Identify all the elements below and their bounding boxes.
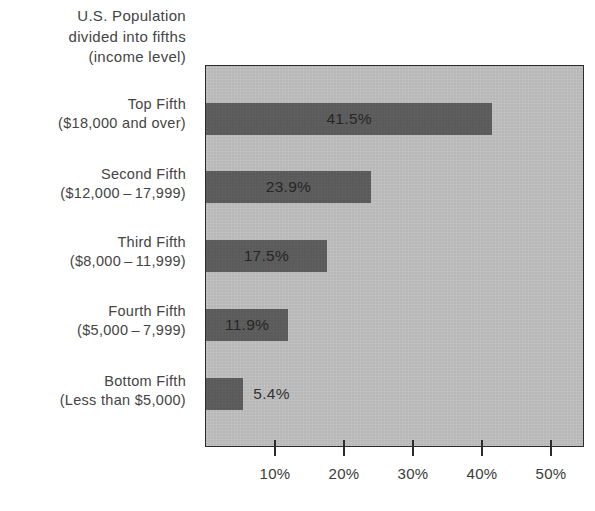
bar-value-label: 17.5%: [206, 240, 327, 272]
plot-area: 41.5% 23.9% 17.5% 11.9% 5.4%: [205, 65, 584, 447]
category-range: ($12,000 – 17,999): [60, 184, 186, 203]
bar-value-label: 11.9%: [206, 309, 288, 341]
x-axis-tick-label: 30%: [383, 465, 443, 483]
header-line-3: (income level): [69, 47, 186, 68]
category-range: (Less than $5,000): [60, 391, 186, 410]
header-line-2: divided into fifths: [69, 27, 186, 48]
category-label-bottom-fifth: Bottom Fifth (Less than $5,000): [60, 372, 186, 410]
x-axis-tick: [412, 440, 414, 456]
x-axis-tick: [274, 440, 276, 456]
bar-value-label: 5.4%: [253, 378, 290, 410]
category-range: ($8,000 – 11,999): [70, 252, 186, 271]
category-name: Bottom Fifth: [60, 372, 186, 391]
category-range: ($18,000 and over): [58, 114, 186, 133]
category-name: Third Fifth: [70, 233, 186, 252]
bar-top-fifth: 41.5%: [206, 103, 492, 135]
bar-value-label: 41.5%: [206, 103, 492, 135]
category-label-second-fifth: Second Fifth ($12,000 – 17,999): [60, 165, 186, 203]
category-label-top-fifth: Top Fifth ($18,000 and over): [58, 95, 186, 133]
category-name: Second Fifth: [60, 165, 186, 184]
bar-bottom-fifth: 5.4%: [206, 378, 243, 410]
category-label-fourth-fifth: Fourth Fifth ($5,000 – 7,999): [77, 302, 186, 340]
x-axis-tick-label: 50%: [521, 465, 581, 483]
category-label-third-fifth: Third Fifth ($8,000 – 11,999): [70, 233, 186, 271]
chart-header: U.S. Population divided into fifths (inc…: [69, 6, 186, 68]
bar-second-fifth: 23.9%: [206, 171, 371, 203]
x-axis-tick: [481, 440, 483, 456]
header-line-1: U.S. Population: [69, 6, 186, 27]
bar-third-fifth: 17.5%: [206, 240, 327, 272]
x-axis-tick-label: 10%: [245, 465, 305, 483]
category-name: Fourth Fifth: [77, 302, 186, 321]
x-axis-tick: [550, 440, 552, 456]
x-axis-tick-label: 20%: [314, 465, 374, 483]
category-range: ($5,000 – 7,999): [77, 321, 186, 340]
x-axis-tick-label: 40%: [452, 465, 512, 483]
bar-fourth-fifth: 11.9%: [206, 309, 288, 341]
category-name: Top Fifth: [58, 95, 186, 114]
x-axis-tick: [343, 440, 345, 456]
bar-value-label: 23.9%: [206, 171, 371, 203]
